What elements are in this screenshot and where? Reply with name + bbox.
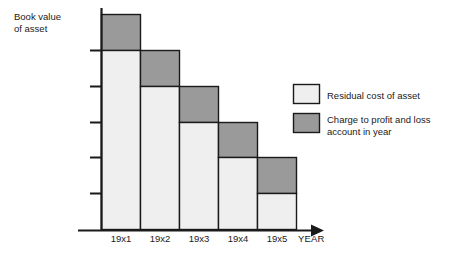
legend-swatch-charge [294,114,320,133]
legend-label-charge-line1: Charge to profit and loss [327,114,431,125]
legend-label-charge: Charge to profit and lossaccount in year [327,114,431,137]
legend-label-charge-line2: account in year [327,126,391,137]
legend-swatch-residual [294,85,320,104]
legend-label-residual: Residual cost of asset [327,90,420,102]
legend-label-residual-line1: Residual cost of asset [327,90,420,101]
depreciation-bar-chart: Book valueof asset 19x1 19x2 19x3 19x4 1… [0,0,450,260]
